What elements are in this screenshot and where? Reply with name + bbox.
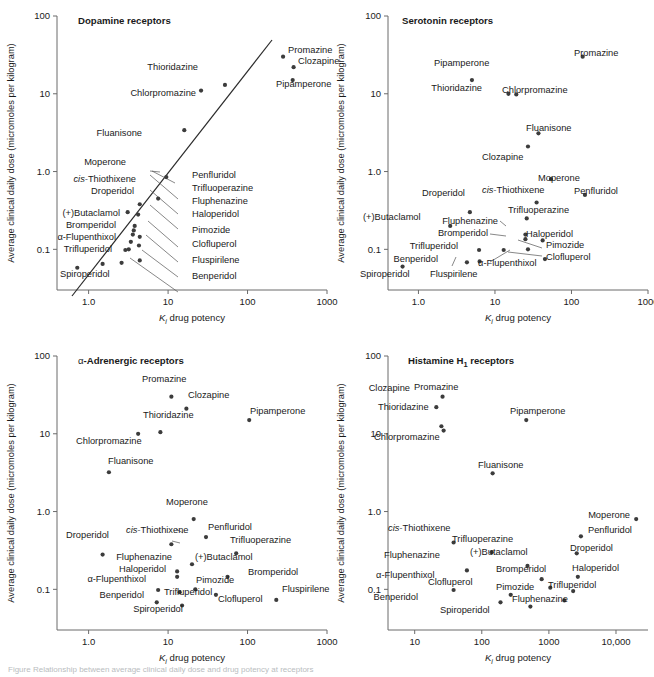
point-label: Spiroperidol xyxy=(133,604,183,614)
point-label: Thioridazine xyxy=(147,62,198,72)
data-point xyxy=(292,65,296,69)
point-label: Benperidol xyxy=(394,254,438,264)
point-label: Pipamperone xyxy=(510,406,565,416)
data-point xyxy=(526,144,530,148)
regression-line xyxy=(72,40,272,296)
point-label: Fluanisone xyxy=(97,128,142,138)
x-tick-label: 100 xyxy=(474,636,490,647)
label-leader-line xyxy=(150,171,160,172)
point-label: Trifluoperazine xyxy=(508,205,569,215)
point-label: Promazine xyxy=(574,48,618,58)
point-label: Pipamperone xyxy=(434,58,489,68)
point-label: Chlorpromazine xyxy=(76,436,142,446)
data-point xyxy=(434,405,438,409)
label-leader-line xyxy=(508,252,542,256)
point-label: Bromperidol xyxy=(438,228,488,238)
point-label: cis-Thiothixene xyxy=(388,523,451,533)
data-point xyxy=(465,568,469,572)
point-label: Haloperidol xyxy=(526,229,573,239)
data-point xyxy=(528,604,532,608)
data-point xyxy=(164,175,168,179)
point-label: Fluphenazine xyxy=(512,594,568,604)
point-label: Droperidol xyxy=(91,186,134,196)
point-label: Chlorpromazine xyxy=(502,85,568,95)
point-label: Droperidol xyxy=(570,543,613,553)
data-point xyxy=(540,577,544,581)
data-point xyxy=(137,243,141,247)
data-point xyxy=(156,196,160,200)
y-tick-label: 0.1 xyxy=(37,584,50,595)
x-axis-title-rest: drug potency xyxy=(493,312,551,323)
y-tick-label: 100 xyxy=(34,350,50,361)
point-label: Clofluperol xyxy=(546,252,590,262)
label-leader-line xyxy=(150,205,178,229)
x-axis-title-rest: drug potency xyxy=(493,652,551,663)
point-label: Fluphenazine xyxy=(192,196,248,206)
y-tick-label: 10 xyxy=(39,428,50,439)
point-label: Chlorpromazine xyxy=(130,88,196,98)
data-point xyxy=(439,424,443,428)
label-leader-line xyxy=(142,250,178,277)
point-label: Haloperidol xyxy=(572,563,619,573)
data-point xyxy=(131,232,135,236)
label-leader-line xyxy=(490,234,506,236)
x-tick-label: 100 xyxy=(240,636,256,647)
x-tick-label: 10,000 xyxy=(601,636,630,647)
point-label: (+)Butaclamol xyxy=(470,547,528,557)
point-label: Trifluperidol xyxy=(548,580,596,590)
point-label: Clozapine xyxy=(482,152,523,162)
point-label: Trifluperidol xyxy=(164,587,212,597)
point-label: Moperone xyxy=(84,157,126,167)
point-label: Moperone xyxy=(166,497,208,507)
point-label: α-Flupenthixol xyxy=(57,232,116,242)
data-point xyxy=(101,262,105,266)
data-point xyxy=(477,248,481,252)
point-label: Penfluridol xyxy=(574,186,618,196)
data-point xyxy=(534,200,538,204)
point-label: Pimozide xyxy=(496,582,534,592)
data-point xyxy=(192,517,196,521)
point-label: Pipamperone xyxy=(250,406,305,416)
data-point xyxy=(129,240,133,244)
data-point xyxy=(470,78,474,82)
y-tick-label: 1.0 xyxy=(37,166,50,177)
label-leader-line xyxy=(452,257,456,266)
point-label: Benperidol xyxy=(100,590,144,600)
point-label: Moperone xyxy=(538,173,580,183)
label-leader-line xyxy=(150,190,178,214)
label-leader-line xyxy=(518,240,542,248)
point-label: (+)Butaclamol xyxy=(363,212,421,222)
point-label: Trifluperidol xyxy=(64,244,112,254)
point-label: Chlorpromazine xyxy=(374,432,440,442)
point-label: Benperidol xyxy=(192,271,236,281)
label-leader-line xyxy=(500,221,506,226)
data-point xyxy=(498,600,502,604)
x-tick-label: 100 xyxy=(564,296,580,307)
y-axis-title: Average clinical daily dose (micromoles … xyxy=(6,43,16,262)
data-point xyxy=(138,235,142,239)
point-label: Promazine xyxy=(288,45,332,55)
point-label: (+)Butaclamol xyxy=(195,552,253,562)
panel-dopamine-receptors: 100101.00.11.0101001000Average clinical … xyxy=(0,0,330,330)
point-label: α-Flupenthixol xyxy=(376,570,435,580)
point-label: Clofluperol xyxy=(218,594,262,604)
point-label: Spiroperidol xyxy=(360,269,410,279)
y-tick-label: 1.0 xyxy=(368,506,381,517)
label-leader-line xyxy=(172,541,180,543)
point-label: Clozapine xyxy=(369,383,410,393)
data-point xyxy=(491,471,495,475)
data-point xyxy=(101,552,105,556)
point-label: Promazine xyxy=(414,382,458,392)
point-label: Bromperidol xyxy=(248,567,298,577)
data-point xyxy=(579,534,583,538)
data-point xyxy=(442,428,446,432)
point-label: Trifluoperazine xyxy=(452,534,513,544)
point-label: α-Flupenthixol xyxy=(87,574,146,584)
x-axis-title: Ki drug potency xyxy=(159,312,225,325)
y-tick-label: 0.1 xyxy=(368,244,381,255)
figure-caption: Figure Relationship between average clin… xyxy=(8,665,648,674)
x-axis-title-rest: drug potency xyxy=(167,652,225,663)
point-label: (+)Butaclamol xyxy=(62,208,120,218)
point-label: Thioridazine xyxy=(431,83,482,93)
point-label: Promazine xyxy=(142,374,186,384)
